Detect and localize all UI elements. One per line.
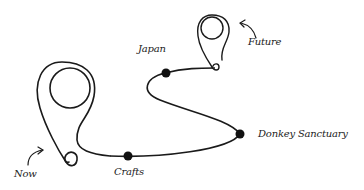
map-pin-icon-now [37,62,110,166]
label-now: Now [14,168,37,179]
label-donkey-sanctuary: Donkey Sanctuary [258,128,348,139]
journey-line [110,68,240,156]
arrow-icon-now [28,147,43,165]
map-pin-icon-future [198,15,229,70]
milestone-dot-japan [162,69,171,78]
milestone-dot-donkey-sanctuary [236,130,245,139]
milestone-dot-crafts [124,152,133,161]
label-japan: Japan [138,43,166,54]
journey-path-diagram [0,0,364,190]
label-crafts: Crafts [114,166,144,177]
label-future: Future [248,36,281,47]
